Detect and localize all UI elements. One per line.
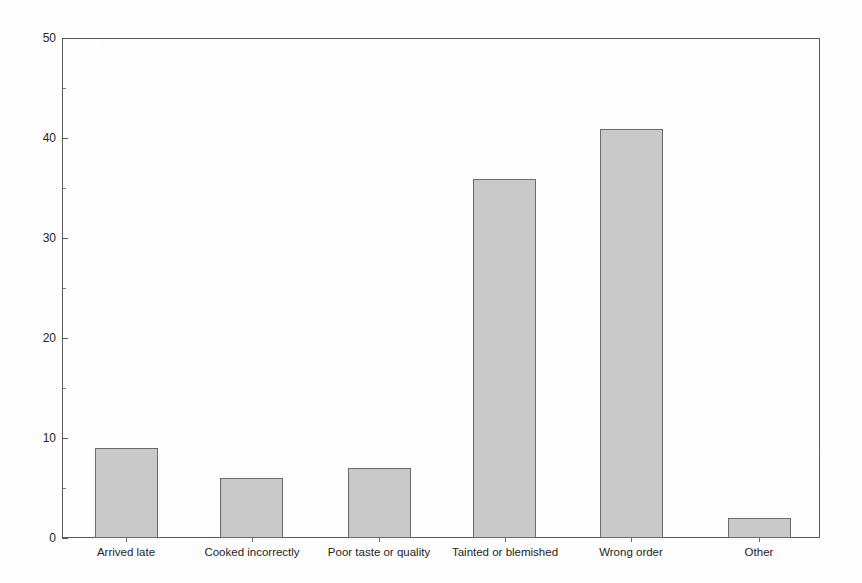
x-tick-mark-0 [126, 538, 127, 542]
y-tick-label-10: 10 [16, 432, 56, 444]
x-tick-mark-5 [759, 538, 760, 542]
bar-other [728, 518, 791, 538]
y-tick-label-50: 50 [16, 32, 56, 44]
y-tick-mark-0 [62, 538, 68, 539]
bar-poor-taste-or-quality [348, 468, 411, 538]
y-axis-tick-labels: 0 10 20 30 40 50 [10, 38, 56, 538]
x-tick-mark-2 [379, 538, 380, 542]
x-tick-label-poor-taste-or-quality: Poor taste or quality [328, 545, 430, 559]
x-tick-mark-3 [505, 538, 506, 542]
y-tick-label-0: 0 [16, 532, 56, 544]
bar-arrived-late [95, 448, 158, 538]
plot-area [63, 39, 820, 538]
y-tick-label-30: 30 [16, 232, 56, 244]
bar-wrong-order [600, 129, 663, 538]
x-tick-mark-4 [631, 538, 632, 542]
x-tick-label-arrived-late: Arrived late [97, 545, 155, 559]
x-tick-label-tainted-or-blemished: Tainted or blemished [452, 545, 558, 559]
y-tick-label-40: 40 [16, 132, 56, 144]
bar-chart: 0 10 20 30 40 50 Arrived late Cooked inc… [0, 0, 862, 583]
bar-cooked-incorrectly [220, 478, 283, 538]
x-tick-label-cooked-incorrectly: Cooked incorrectly [204, 545, 299, 559]
x-tick-label-wrong-order: Wrong order [599, 545, 663, 559]
bar-tainted-or-blemished [473, 179, 536, 538]
x-axis-tick-labels: Arrived late Cooked incorrectly Poor tas… [63, 545, 820, 565]
x-tick-mark-1 [252, 538, 253, 542]
x-tick-label-other: Other [745, 545, 774, 559]
y-tick-label-20: 20 [16, 332, 56, 344]
